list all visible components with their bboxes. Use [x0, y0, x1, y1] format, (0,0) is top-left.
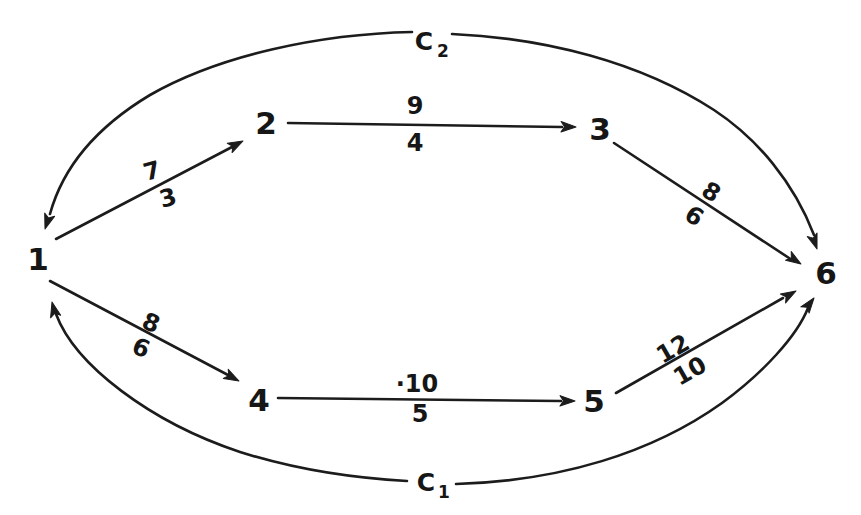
c2-arrowhead-into-node-6 — [807, 233, 822, 251]
c2-label-subscript: 2 — [437, 41, 449, 61]
c1-arrowhead-into-node-1 — [47, 301, 61, 318]
edge-1-2: 7 3 — [56, 136, 245, 239]
edge-2-3-line — [288, 123, 562, 127]
edge-1-2-label-below: 3 — [156, 182, 179, 213]
node-2-label: 2 — [255, 105, 277, 141]
c1-arrowhead-into-node-6 — [801, 295, 818, 313]
edge-5-6-arrowhead — [780, 286, 798, 303]
edge-1-4-arrowhead — [223, 369, 241, 385]
edge-2-3-label-above: 9 — [407, 92, 424, 120]
c2-arrowhead-into-node-1 — [40, 213, 55, 230]
c2-curve-right-segment — [452, 34, 814, 235]
c2-label: C — [415, 27, 433, 56]
c1-label-subscript: 1 — [438, 482, 450, 502]
edge-3-6: 8 6 — [614, 143, 804, 268]
c1-label: C — [417, 468, 435, 497]
edge-3-6-arrowhead — [786, 251, 804, 268]
edge-4-5: ·10 5 — [278, 370, 575, 428]
edge-5-6: 12 10 — [616, 286, 799, 393]
edge-1-2-label-above: 7 — [140, 155, 163, 186]
edge-1-4: 8 6 — [50, 281, 241, 386]
edge-1-4-label-below: 6 — [128, 332, 154, 364]
edge-4-5-label-above: ·10 — [396, 370, 439, 398]
edge-3-6-label-below: 6 — [679, 200, 708, 233]
node-1-label: 1 — [27, 241, 49, 277]
flow-network-diagram: C 2 C 1 7 3 9 4 8 — [0, 0, 861, 515]
cycle-curve-c2: C 2 — [40, 27, 822, 251]
node-5-label: 5 — [583, 383, 605, 419]
flow-network-figure: C 2 C 1 7 3 9 4 8 — [0, 0, 861, 515]
edge-2-3-label-below: 4 — [407, 129, 424, 157]
c1-curve-left-segment — [56, 314, 407, 481]
node-6-label: 6 — [815, 255, 837, 291]
node-3-label: 3 — [589, 111, 611, 147]
edge-1-2-arrowhead — [227, 136, 245, 152]
c1-curve-right-segment — [456, 308, 808, 484]
node-4-label: 4 — [248, 382, 270, 418]
edge-4-5-label-below: 5 — [412, 400, 429, 428]
edge-2-3: 9 4 — [288, 92, 576, 157]
